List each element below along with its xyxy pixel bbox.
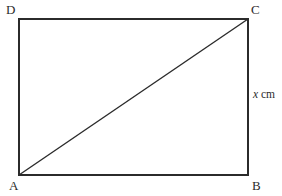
vertex-label-c: C [251,3,260,16]
diagonal-line-ac [19,19,248,175]
vertex-label-d: D [6,3,15,16]
side-length-unit: cm [261,88,275,100]
vertex-label-a: A [9,179,18,192]
geometry-figure: D C A B x cm [0,0,282,196]
vertex-label-b: B [252,179,261,192]
figure-drawing-area [0,0,282,196]
side-length-variable: x [253,88,258,100]
side-length-label-bc: x cm [253,88,275,100]
